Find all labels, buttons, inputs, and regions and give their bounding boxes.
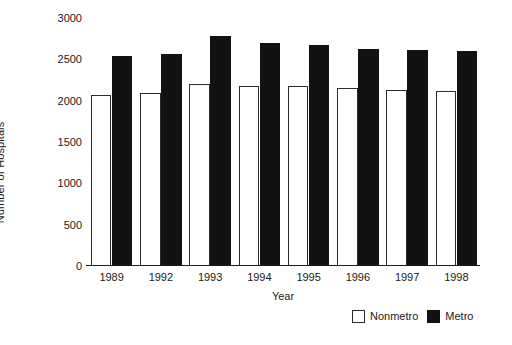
x-axis-tick-labels: 19891992199319941995199619971998: [86, 270, 480, 288]
legend-entry-metro: Metro: [427, 310, 473, 323]
x-axis-title: Year: [86, 290, 480, 302]
y-tick-label: 0: [38, 261, 82, 272]
bar-nonmetro-1996: [337, 88, 358, 266]
bar-nonmetro-1993: [189, 84, 210, 266]
bar-metro-1996: [358, 49, 379, 266]
x-axis-baseline: [86, 265, 480, 266]
bar-group-1989: [91, 18, 133, 266]
y-tick-label: 3000: [38, 13, 82, 24]
plot-area: [86, 18, 480, 266]
bar-nonmetro-1992: [140, 93, 161, 266]
bar-metro-1989: [112, 56, 133, 266]
open-square-icon: [352, 310, 365, 323]
chart-legend: NonmetroMetro: [352, 310, 473, 323]
bar-nonmetro-1995: [288, 86, 309, 266]
bar-nonmetro-1998: [436, 91, 457, 266]
bar-nonmetro-1994: [239, 86, 260, 266]
filled-square-icon: [427, 310, 440, 323]
bar-metro-1994: [260, 43, 281, 266]
y-tick-label: 1000: [38, 178, 82, 189]
x-tick-label: 1996: [346, 270, 370, 284]
bar-metro-1997: [407, 50, 428, 266]
bar-nonmetro-1997: [386, 90, 407, 266]
bar-metro-1992: [161, 54, 182, 266]
y-tick-label: 2000: [38, 95, 82, 106]
x-tick-label: 1998: [444, 270, 468, 284]
legend-label: Nonmetro: [370, 310, 418, 323]
x-tick-label: 1994: [247, 270, 271, 284]
bar-group-1994: [239, 18, 281, 266]
y-tick-label: 2500: [38, 54, 82, 65]
bar-group-1998: [436, 18, 478, 266]
x-tick-label: 1992: [149, 270, 173, 284]
x-tick-label: 1997: [395, 270, 419, 284]
bar-metro-1995: [309, 45, 330, 266]
y-tick-label: 500: [38, 219, 82, 230]
bar-group-1992: [140, 18, 182, 266]
legend-entry-nonmetro: Nonmetro: [352, 310, 418, 323]
bar-chart-figure: Number of Hospitals 05001000150020002500…: [0, 0, 512, 345]
bar-nonmetro-1989: [91, 95, 112, 266]
legend-label: Metro: [445, 310, 473, 323]
bar-group-1995: [288, 18, 330, 266]
y-tick-label: 1500: [38, 137, 82, 148]
x-tick-label: 1989: [99, 270, 123, 284]
x-tick-label: 1993: [198, 270, 222, 284]
bar-group-1997: [386, 18, 428, 266]
x-tick-label: 1995: [296, 270, 320, 284]
bar-metro-1998: [457, 51, 478, 266]
bar-metro-1993: [210, 36, 231, 266]
bar-group-1993: [189, 18, 231, 266]
y-axis-tick-labels: 050010001500200025003000: [38, 0, 82, 290]
bar-group-1996: [337, 18, 379, 266]
